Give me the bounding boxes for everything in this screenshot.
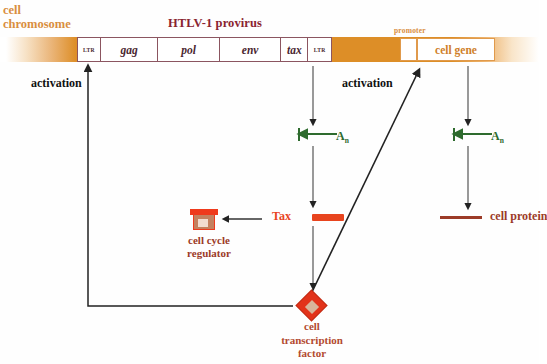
tax-protein-bar [312,214,344,221]
cell-transcription-factor-label: cell transcription factor [258,320,366,361]
cell-gene-box: cell gene [417,38,495,61]
provirus-segment-pol: pol [158,38,220,61]
cell-transcription-factor-icon [297,292,327,320]
cell-chromosome-label-line2: chromosome [3,17,89,31]
cell-cycle-regulator-core [198,219,208,227]
provirus-segment-ltr-left: LTR [78,38,101,61]
provirus-segment-gag: gag [101,38,159,61]
cell-mrna-group: An [447,128,511,150]
activation-label-left: activation [31,76,82,91]
cell-cycle-regulator-icon [190,209,218,231]
feedback-activation-path [88,66,293,306]
htlv1-provirus-cassette: LTR gag pol env tax LTR [77,37,332,62]
cell-transcription-factor-label-line3: factor [258,347,366,361]
cell-protein-bar [440,216,482,219]
provirus-segment-tax: tax [281,38,308,61]
cell-chromosome-label: cell chromosome [3,3,89,31]
provirus-title: HTLV-1 provirus [168,16,262,31]
promoter-label: promoter [394,26,426,35]
cell-transcription-factor-label-line1: cell [258,320,366,334]
tax-protein-label: Tax [272,209,291,224]
provirus-segment-ltr-right: LTR [308,38,331,61]
provirus-segment-env: env [220,38,282,61]
cell-transcription-factor-label-line2: transcription [258,334,366,348]
viral-polyA-label: An [336,129,349,145]
viral-mrna-group: An [292,128,356,150]
activation-label-right: activation [342,76,393,91]
cell-cycle-regulator-label: cell cycle regulator [178,234,240,260]
cell-polyA-label: An [491,129,504,145]
promoter-box [400,38,417,61]
cell-chromosome-label-line1: cell [3,3,89,17]
cell-cycle-regulator-label-line1: cell cycle [178,234,240,247]
promoter-activation-arrow [312,70,419,292]
cell-cycle-regulator-label-line2: regulator [178,247,240,260]
cell-protein-label: cell protein [490,209,547,224]
